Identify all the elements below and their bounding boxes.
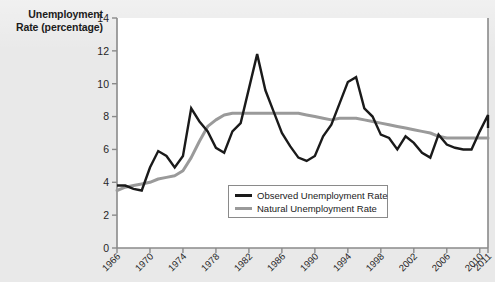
x-axis-ticks: 1966197019741978198219861990199419982002… [100,248,494,273]
y-tick-label: 10 [97,78,109,90]
y-tick-label: 6 [103,143,109,155]
y-tick-label: 2 [103,209,109,221]
x-tick-label: 2002 [396,251,419,274]
x-tick-label: 1982 [232,251,255,274]
y-axis-ticks: 02468101214 [97,12,117,254]
legend-item-natural: Natural Unemployment Rate [235,202,382,215]
legend-item-observed: Observed Unemployment Rate [235,189,382,202]
chart-legend: Observed Unemployment Rate Natural Unemp… [228,185,388,218]
x-tick-label: 1990 [298,251,321,274]
x-tick-label: 2006 [429,251,452,274]
x-tick-label: 1986 [265,251,288,274]
y-tick-label: 4 [103,176,109,188]
legend-swatch-natural-icon [235,207,252,210]
chart-figure: Unemployment Rate (percentage) 024681012… [0,0,495,282]
x-tick-label: 1994 [331,251,354,274]
y-tick-label: 12 [97,45,109,57]
legend-swatch-observed-icon [235,194,252,197]
legend-label-natural: Natural Unemployment Rate [257,203,377,215]
x-tick-label: 1978 [199,251,222,274]
x-tick-label: 1966 [100,251,123,274]
legend-label-observed: Observed Unemployment Rate [257,190,387,202]
x-tick-label: 1970 [133,251,156,274]
x-tick-label: 1998 [364,251,387,274]
y-tick-label: 8 [103,110,109,122]
line-chart-plot: 02468101214 1966197019741978198219861990… [0,0,495,282]
y-tick-label: 14 [97,12,109,24]
x-tick-label: 1974 [166,251,189,274]
y-tick-label: 0 [103,242,109,254]
